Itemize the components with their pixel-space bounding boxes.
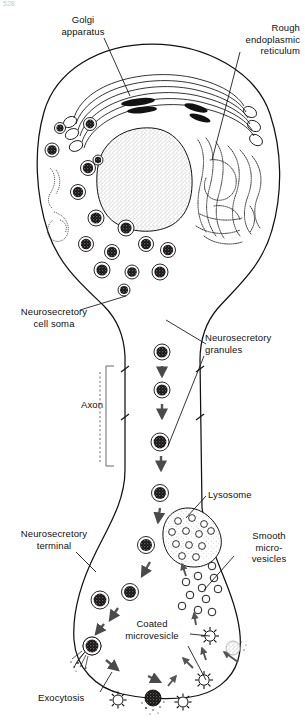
label-neurosecretory-granules: Neurosecretory granules [205, 332, 303, 355]
figure-page: 528 [0, 0, 305, 725]
label-smooth-microvesicles: Smooth micro- vesicles [236, 530, 302, 565]
nucleus [97, 128, 192, 231]
label-neurosecretory-cell-soma: Neurosecretory cell soma [2, 306, 106, 329]
label-coated-microvesicle: Coated microvesicle [110, 618, 194, 641]
label-neurosecretory-terminal: Neurosecretory terminal [4, 528, 104, 551]
rough-endoplasmic-reticulum [196, 138, 261, 244]
axon-bracket [100, 366, 114, 466]
label-golgi-apparatus: Golgi apparatus [40, 14, 126, 37]
label-lysosome: Lysosome [208, 489, 280, 501]
neurosecretory-cell-diagram [0, 0, 305, 725]
cytoplasmic-er-profiles [48, 168, 69, 241]
label-rough-endoplasmic-reticulum: Rough endoplasmic reticulum [200, 22, 300, 57]
label-axon: Axon [74, 399, 110, 411]
label-exocytosis: Exocytosis [38, 692, 112, 704]
lysosome [163, 508, 221, 567]
